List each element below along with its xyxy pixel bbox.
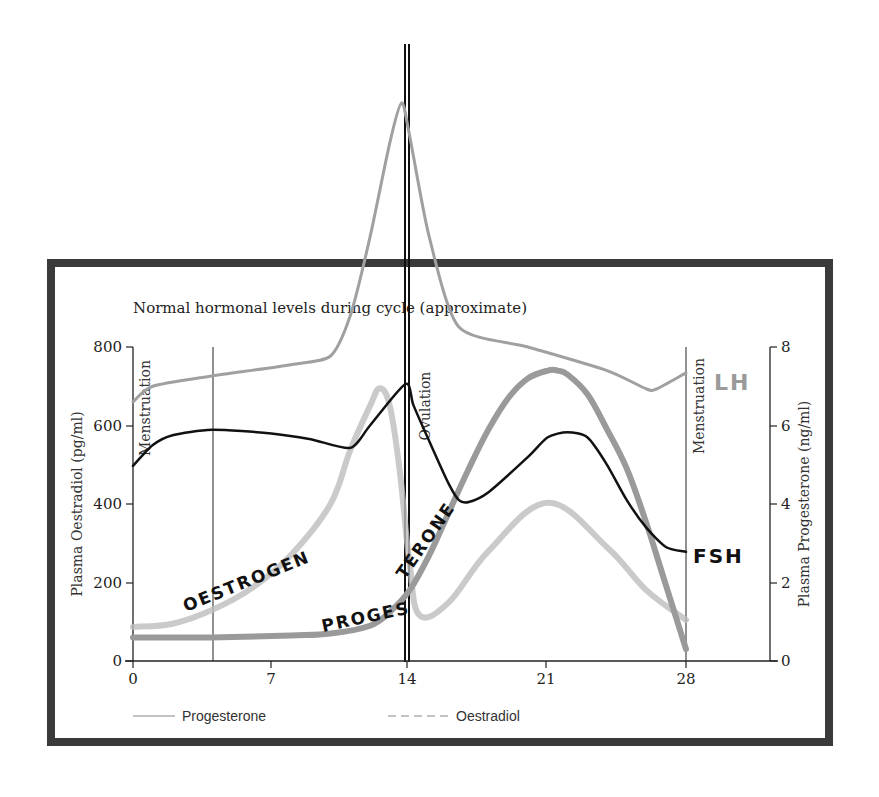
- svg-text:7: 7: [266, 670, 276, 688]
- svg-text:28: 28: [676, 670, 695, 688]
- svg-text:2: 2: [781, 574, 791, 592]
- svg-text:6: 6: [781, 417, 791, 435]
- svg-text:4: 4: [781, 495, 791, 513]
- chart-title: Normal hormonal levels during cycle (app…: [133, 299, 527, 317]
- y-right-axis-title: Plasma Progesterone (ng/ml): [796, 401, 812, 608]
- y-left-axis-title: Plasma Oestradiol (pg/ml): [69, 411, 85, 596]
- svg-text:0: 0: [128, 670, 138, 688]
- left-axis-ticks: [126, 347, 133, 661]
- hormone-cycle-chart: Normal hormonal levels during cycle (app…: [0, 0, 879, 797]
- svg-text:600: 600: [93, 417, 122, 435]
- lh-annotation: LH: [714, 370, 750, 395]
- right-axis-tick-labels: 0 2 4 6 8: [781, 338, 791, 670]
- right-axis-ticks: [770, 347, 777, 661]
- svg-text:8: 8: [781, 338, 791, 356]
- menstruation-end-label: Menstruation: [691, 358, 707, 454]
- legend: Progesterone Oestradiol: [133, 708, 520, 724]
- x-axis-ticks: [133, 661, 686, 668]
- svg-text:21: 21: [536, 670, 555, 688]
- legend-progesterone-label: Progesterone: [182, 708, 266, 724]
- svg-text:400: 400: [93, 495, 122, 513]
- svg-text:0: 0: [781, 652, 791, 670]
- legend-oestradiol-label: Oestradiol: [456, 708, 520, 724]
- x-axis-tick-labels: 0 7 14 21 28: [128, 670, 695, 688]
- svg-text:14: 14: [397, 670, 416, 688]
- svg-text:200: 200: [93, 574, 122, 592]
- menstruation-start-label: Menstruation: [137, 360, 153, 456]
- fsh-annotation: FSH: [693, 544, 744, 568]
- left-axis-tick-labels: 0 200 400 600 800: [93, 338, 122, 670]
- svg-text:0: 0: [112, 652, 122, 670]
- svg-text:800: 800: [93, 338, 122, 356]
- oestrogen-annotation: OESTROGEN: [180, 546, 313, 615]
